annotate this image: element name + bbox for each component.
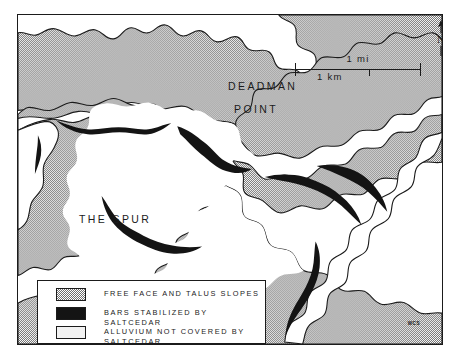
place-label-the-spur: THE SPUR: [79, 213, 151, 225]
legend-label-bars: BARS STABILIZED BY SALTCEDAR: [104, 307, 265, 328]
legend-swatch-bars: [56, 307, 86, 320]
scale-bar: 1 mi 1 km: [295, 55, 423, 83]
legend-swatch-free-face: [56, 288, 86, 301]
scale-label-kilometers: 1 km: [295, 71, 443, 82]
scale-label-miles: 1 mi: [295, 53, 421, 64]
north-arrow: N: [430, 20, 443, 64]
legend-swatch-alluvium: [56, 326, 86, 339]
place-label-point: POINT: [234, 103, 278, 115]
map-frame: 1 mi 1 km N DEADMAN POINT THE SPUR FREE …: [17, 14, 443, 345]
place-label-deadman: DEADMAN: [228, 80, 297, 92]
legend-item-alluvium: ALLUVIUM NOT COVERED BY SALTCEDAR: [56, 326, 245, 345]
legend-item-free-face: FREE FACE AND TALUS SLOPES: [56, 288, 259, 301]
figure-credit: WCS: [408, 321, 420, 326]
legend-label-alluvium: ALLUVIUM NOT COVERED BY SALTCEDAR: [104, 326, 245, 345]
geomorphic-map-figure: 1 mi 1 km N DEADMAN POINT THE SPUR FREE …: [0, 0, 461, 356]
legend-label-free-face: FREE FACE AND TALUS SLOPES: [104, 288, 259, 299]
map-legend: FREE FACE AND TALUS SLOPES BARS STABILIZ…: [37, 280, 266, 344]
north-arrow-label: N: [430, 33, 443, 45]
legend-item-bars: BARS STABILIZED BY SALTCEDAR: [56, 307, 265, 328]
